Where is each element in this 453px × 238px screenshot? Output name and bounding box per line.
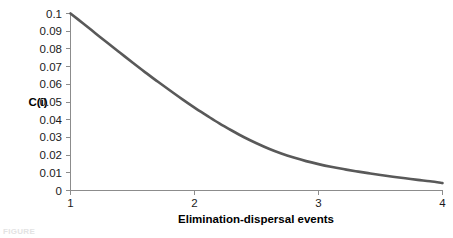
y-tick-label: 0.03 (40, 131, 62, 143)
y-tick-label: 0.1 (46, 8, 62, 20)
y-tick-label: 0.01 (40, 167, 62, 179)
caption-remnant: FIGURE (3, 228, 73, 235)
x-tick-label: 4 (439, 197, 446, 209)
x-tick-label: 3 (315, 197, 321, 209)
y-tick-label: 0 (56, 185, 62, 197)
line-chart: 0.1 0.09 0.08 0.07 0.06 0.05 0.04 0.03 0… (0, 0, 453, 238)
x-tick-label: 1 (67, 197, 73, 209)
chart-figure: 0.1 0.09 0.08 0.07 0.06 0.05 0.04 0.03 0… (0, 0, 453, 238)
y-tick-marks (66, 14, 70, 191)
y-tick-label: 0.08 (40, 43, 62, 55)
x-axis-title: Elimination-dispersal events (178, 213, 334, 225)
x-tick-label: 2 (191, 197, 197, 209)
y-axis-title: C(i) (28, 96, 47, 108)
y-tick-label: 0.09 (40, 25, 62, 37)
y-tick-label: 0.06 (40, 78, 62, 90)
plot-area (70, 13, 443, 190)
y-tick-label: 0.04 (40, 114, 63, 126)
y-tick-label: 0.02 (40, 149, 62, 161)
y-tick-label: 0.07 (40, 61, 62, 73)
x-tick-labels: 1 2 3 4 (67, 197, 446, 209)
